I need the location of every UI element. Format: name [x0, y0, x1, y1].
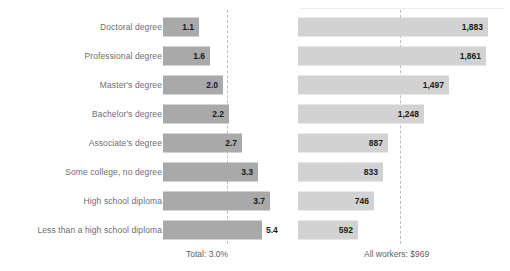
bar-value-unemployment: 2.7 [225, 138, 237, 148]
chart-row: Associate's degree 2.7 887 [0, 128, 510, 157]
bar-value-unemployment: 2.2 [212, 109, 224, 119]
chart-row: Bachelor's degree 2.2 1,248 [0, 99, 510, 128]
footer-total-unemployment: Total: 3.0% [186, 249, 228, 259]
chart-figure: Doctoral degree 1.1 1,883 Professional d… [0, 0, 510, 271]
bar-value-unemployment: 1.1 [182, 22, 194, 32]
bar-value-unemployment: 2.0 [206, 80, 218, 90]
category-label: Bachelor's degree [92, 109, 162, 119]
category-label: Professional degree [84, 51, 162, 61]
chart-row: High school diploma 3.7 746 [0, 186, 510, 215]
bar-unemployment: 1.1 [163, 17, 199, 36]
bar-earnings: 746 [298, 191, 374, 210]
bar-value-earnings: 592 [339, 225, 353, 235]
category-label: High school diploma [84, 196, 162, 206]
footer-all-workers-earnings: All workers: $969 [364, 249, 429, 259]
category-label: Less than a high school diploma [37, 225, 162, 235]
bar-value-unemployment: 1.6 [193, 51, 205, 61]
bar-earnings: 1,248 [298, 104, 424, 123]
bar-unemployment: 2.7 [163, 133, 242, 152]
bar-earnings: 1,861 [298, 46, 486, 65]
chart-row: Some college, no degree 3.3 833 [0, 157, 510, 186]
bar-earnings: 833 [298, 162, 383, 181]
bar-unemployment: 2.2 [163, 104, 229, 123]
chart-row: Master's degree 2.0 1,497 [0, 70, 510, 99]
bar-earnings: 1,497 [298, 75, 449, 94]
bar-unemployment: 3.7 [163, 191, 270, 210]
chart-row: Less than a high school diploma 5.4 592 [0, 215, 510, 244]
bar-value-unemployment: 5.4 [266, 225, 278, 235]
category-label: Doctoral degree [100, 22, 162, 32]
chart-row: Doctoral degree 1.1 1,883 [0, 12, 510, 41]
chart-row: Professional degree 1.6 1,861 [0, 41, 510, 70]
bar-value-earnings: 746 [355, 196, 369, 206]
bar-earnings: 1,883 [298, 17, 488, 36]
category-label: Associate's degree [89, 138, 162, 148]
bar-value-earnings: 1,497 [423, 80, 444, 90]
category-label: Master's degree [100, 80, 162, 90]
bar-earnings: 887 [298, 133, 388, 152]
bar-value-earnings: 1,883 [462, 22, 483, 32]
bar-value-earnings: 833 [364, 167, 378, 177]
bar-value-earnings: 1,248 [398, 109, 419, 119]
bar-value-unemployment: 3.3 [241, 167, 253, 177]
bar-value-earnings: 887 [369, 138, 383, 148]
bar-earnings: 592 [298, 220, 358, 239]
bar-unemployment: 3.3 [163, 162, 258, 181]
bar-unemployment: 1.6 [163, 46, 210, 65]
bar-value-earnings: 1,861 [460, 51, 481, 61]
header-divider [300, 8, 505, 9]
category-label: Some college, no degree [65, 167, 162, 177]
bar-value-unemployment: 3.7 [253, 196, 265, 206]
chart-title [330, 0, 480, 5]
bar-unemployment: 5.4 [163, 220, 262, 239]
bar-unemployment: 2.0 [163, 75, 223, 94]
